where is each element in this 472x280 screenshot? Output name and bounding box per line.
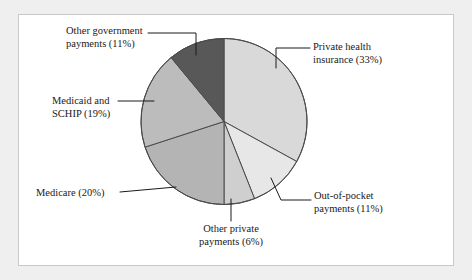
pie-slices-group xyxy=(141,39,307,205)
leader-line-medicare xyxy=(120,187,176,192)
pie-label-out-of-pocket-payments: Out-of-pocket payments (11%) xyxy=(314,190,383,215)
pie-label-medicare: Medicare (20%) xyxy=(36,187,105,200)
pie-label-other-private-payments: Other private payments (6%) xyxy=(176,223,286,248)
figure-page: Private health insurance (33%) Out-of-po… xyxy=(0,0,472,280)
pie-label-private-health-insurance: Private health insurance (33%) xyxy=(313,41,382,66)
pie-label-medicaid-and-schip: Medicaid and SCHIP (19%) xyxy=(52,95,110,120)
pie-label-other-government-payments: Other government payments (11%) xyxy=(66,25,143,50)
